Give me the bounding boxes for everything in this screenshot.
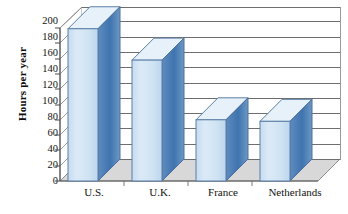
bar-front-face-france bbox=[196, 120, 226, 181]
bar-side-face-uk bbox=[162, 38, 184, 181]
bars-layer bbox=[0, 0, 348, 214]
bar-group-us[interactable] bbox=[68, 7, 120, 181]
bar-group-netherlands[interactable] bbox=[260, 99, 312, 181]
bar-group-uk[interactable] bbox=[132, 38, 184, 181]
bar-chart: Hours per year 0 20 40 60 80 100 120 140… bbox=[0, 0, 348, 214]
bar-front-face-uk bbox=[132, 60, 162, 181]
bar-front-face-netherlands bbox=[260, 121, 290, 181]
bar-group-france[interactable] bbox=[196, 98, 248, 181]
bar-front-face-us bbox=[68, 29, 98, 181]
bar-side-face-us bbox=[98, 7, 120, 181]
